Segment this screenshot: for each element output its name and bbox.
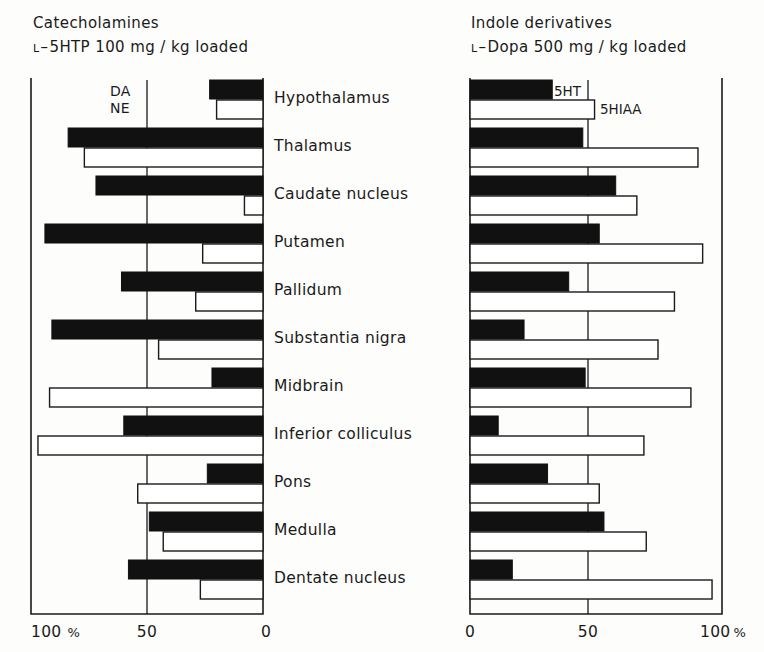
right-panel-subtitle: L–Dopa 500 mg / kg loaded <box>471 38 687 56</box>
legend-5ht-label: 5HT <box>554 83 582 99</box>
bar-chart-figure: Catecholamines L–5HTP 100 mg / kg loaded… <box>0 0 764 652</box>
left-tick-100-suffix: % <box>68 625 81 640</box>
right-tick-100-suffix: % <box>734 625 747 640</box>
right-bar-5ht-pons <box>470 464 548 483</box>
right-bar-5hiaa-pallidum <box>470 292 674 311</box>
left-bar-da-midbrain <box>212 368 263 387</box>
region-label-caudate-nucleus: Caudate nucleus <box>274 185 408 203</box>
region-label-inferior-colliculus: Inferior colliculus <box>274 425 412 443</box>
region-label-hypothalamus: Hypothalamus <box>274 89 390 107</box>
right-axis-tick-0: 0 <box>465 623 475 641</box>
right-bars-group <box>470 80 712 599</box>
region-label-dentate-nucleus: Dentate nucleus <box>274 569 406 587</box>
right-bar-5ht-hypothalamus <box>470 80 552 99</box>
region-label-thalamus: Thalamus <box>273 137 352 155</box>
right-subtitle-dash: – <box>479 38 487 56</box>
right-bar-5hiaa-thalamus <box>470 148 698 167</box>
left-bar-da-inferior-colliculus <box>124 416 263 435</box>
legend-5hiaa-label: 5HIAA <box>600 101 642 117</box>
left-bar-da-substantia-nigra <box>52 320 263 339</box>
right-bar-5hiaa-inferior-colliculus <box>470 436 644 455</box>
right-bar-5hiaa-pons <box>470 484 599 503</box>
right-axis-tick-100: 100% <box>700 623 746 641</box>
left-panel-subtitle: L–5HTP 100 mg / kg loaded <box>33 38 248 56</box>
right-bar-5ht-substantia-nigra <box>470 320 524 339</box>
right-bar-5ht-thalamus <box>470 128 583 147</box>
left-bars-group <box>38 80 263 599</box>
left-axis-tick-0: 0 <box>261 623 271 641</box>
left-axis-tick-100: 100% <box>31 623 80 641</box>
right-bar-5hiaa-medulla <box>470 532 646 551</box>
right-bar-5ht-putamen <box>470 224 599 243</box>
left-bar-ne-medulla <box>163 532 263 551</box>
right-bar-5ht-pallidum <box>470 272 569 291</box>
right-bar-5hiaa-hypothalamus <box>470 100 595 119</box>
right-bar-5hiaa-putamen <box>470 244 703 263</box>
left-bar-ne-pallidum <box>196 292 263 311</box>
right-subtitle-text: Dopa 500 mg / kg loaded <box>487 38 686 56</box>
right-bar-5hiaa-midbrain <box>470 388 691 407</box>
right-bar-5ht-midbrain <box>470 368 585 387</box>
left-panel-title: Catecholamines <box>33 14 159 32</box>
region-labels-group: HypothalamusThalamusCaudate nucleusPutam… <box>273 89 412 587</box>
left-bar-ne-putamen <box>203 244 263 263</box>
left-bar-da-putamen <box>45 224 263 243</box>
left-bar-da-dentate-nucleus <box>128 560 263 579</box>
right-bar-5ht-caudate-nucleus <box>470 176 616 195</box>
left-bar-ne-thalamus <box>84 148 263 167</box>
region-label-pallidum: Pallidum <box>274 281 342 299</box>
legend-da-label: DA <box>110 83 131 99</box>
right-bar-5ht-inferior-colliculus <box>470 416 498 435</box>
figure-container: Catecholamines L–5HTP 100 mg / kg loaded… <box>0 0 764 652</box>
left-subtitle-dash: – <box>41 38 49 56</box>
left-bar-da-pons <box>207 464 263 483</box>
right-bar-5hiaa-substantia-nigra <box>470 340 658 359</box>
right-bar-5ht-medulla <box>470 512 604 531</box>
left-bar-ne-caudate-nucleus <box>244 196 263 215</box>
left-axis-tick-50: 50 <box>137 623 157 641</box>
right-subtitle-prefix: L <box>471 42 478 55</box>
right-panel: Indole derivatives L–Dopa 500 mg / kg lo… <box>465 14 746 641</box>
left-subtitle-prefix: L <box>33 42 40 55</box>
right-bar-5ht-dentate-nucleus <box>470 560 512 579</box>
left-bar-da-hypothalamus <box>210 80 263 99</box>
region-label-substantia-nigra: Substantia nigra <box>274 329 406 347</box>
region-label-putamen: Putamen <box>274 233 345 251</box>
left-subtitle-text: 5HTP 100 mg / kg loaded <box>49 38 248 56</box>
left-panel: Catecholamines L–5HTP 100 mg / kg loaded… <box>31 14 271 641</box>
region-label-medulla: Medulla <box>274 521 337 539</box>
right-bar-5hiaa-caudate-nucleus <box>470 196 637 215</box>
left-bar-ne-substantia-nigra <box>159 340 263 359</box>
legend-ne-label: NE <box>110 100 130 116</box>
left-bar-ne-pons <box>138 484 263 503</box>
left-bar-da-caudate-nucleus <box>96 176 263 195</box>
left-bar-da-medulla <box>149 512 263 531</box>
left-bar-ne-hypothalamus <box>217 100 263 119</box>
left-bar-ne-inferior-colliculus <box>38 436 263 455</box>
left-bar-da-pallidum <box>121 272 263 291</box>
right-tick-100-value: 100 <box>700 623 731 641</box>
region-label-pons: Pons <box>274 473 311 491</box>
left-tick-100-value: 100 <box>31 623 62 641</box>
left-bar-da-thalamus <box>68 128 263 147</box>
left-bar-ne-midbrain <box>50 388 263 407</box>
right-panel-title: Indole derivatives <box>471 14 612 32</box>
region-label-midbrain: Midbrain <box>274 377 344 395</box>
left-bar-ne-dentate-nucleus <box>200 580 263 599</box>
right-bar-5hiaa-dentate-nucleus <box>470 580 712 599</box>
right-axis-tick-50: 50 <box>578 623 598 641</box>
